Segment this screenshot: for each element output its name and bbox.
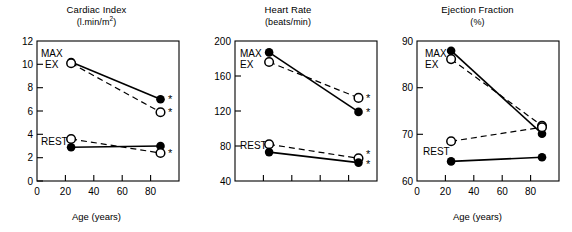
svg-text:80: 80 <box>525 186 537 197</box>
svg-text:90: 90 <box>402 36 414 47</box>
plot-area-heart-rate: 40 80 120 160 200 MAX EX REST <box>193 0 383 232</box>
datapoint-rest-open-old <box>156 149 165 158</box>
significance-star-maxex-open: * <box>366 92 371 104</box>
datapoint-maxex-open-old <box>354 94 363 103</box>
y-tick-labels: 60 70 80 90 <box>402 36 414 187</box>
panel-heart-rate: Heart Rate (beats/min) 40 80 120 160 200 <box>193 0 383 232</box>
series-line-rest-open <box>451 127 542 141</box>
svg-text:20: 20 <box>60 186 72 197</box>
svg-text:160: 160 <box>214 71 231 82</box>
series-line-rest-open <box>269 144 358 158</box>
y-tick-labels: 40 80 120 160 200 <box>214 36 231 187</box>
xaxis-caption-ejection-fraction: Age (years) <box>383 211 572 222</box>
figure-canvas: Cardiac Index (l.min/m2) 0 2 4 6 8 10 <box>0 0 572 232</box>
series-line-maxex-filled <box>71 62 160 99</box>
annotation-ex: EX <box>45 59 59 70</box>
annotation-rest: REST <box>41 136 68 147</box>
series-line-maxex-open <box>269 62 358 98</box>
svg-text:70: 70 <box>402 129 414 140</box>
svg-text:0: 0 <box>414 186 420 197</box>
svg-text:12: 12 <box>22 36 34 47</box>
svg-text:80: 80 <box>145 186 157 197</box>
svg-text:0: 0 <box>34 186 40 197</box>
datapoint-rest-open-young <box>447 137 456 146</box>
svg-text:40: 40 <box>88 186 100 197</box>
datapoint-maxex-filled-old <box>354 108 363 117</box>
datapoint-rest-filled-old <box>538 153 547 162</box>
annotation-max: MAX <box>425 48 447 59</box>
x-tick-labels: 0 20 40 60 80 <box>34 186 156 197</box>
plot-area-ejection-fraction: 60 70 80 90 0 20 40 60 80 MAX EX REST <box>383 0 572 232</box>
svg-text:8: 8 <box>27 82 33 93</box>
y-tick-marks <box>417 88 423 135</box>
significance-star-rest-filled: * <box>366 158 371 170</box>
significance-star-maxex-filled: * <box>366 106 371 118</box>
datapoint-rest-filled-young <box>67 143 76 152</box>
datapoint-maxex-filled-young <box>265 48 274 57</box>
svg-text:40: 40 <box>468 186 480 197</box>
x-tick-marks <box>445 175 530 181</box>
series-line-maxex-open <box>71 63 160 112</box>
significance-star-rest-open: * <box>168 147 173 159</box>
svg-text:6: 6 <box>27 106 33 117</box>
series-line-maxex-filled <box>451 51 542 134</box>
datapoint-rest-filled-young <box>265 148 274 157</box>
datapoint-maxex-filled-old <box>156 95 165 104</box>
annotation-rest: REST <box>423 146 450 157</box>
x-tick-marks <box>263 175 348 181</box>
svg-text:20: 20 <box>440 186 452 197</box>
significance-star-maxex-open: * <box>168 106 173 118</box>
svg-text:80: 80 <box>402 82 414 93</box>
datapoint-maxex-open-young <box>447 55 456 64</box>
svg-text:60: 60 <box>402 176 414 187</box>
y-tick-marks <box>37 64 43 181</box>
series-line-rest-filled <box>451 157 542 161</box>
svg-text:60: 60 <box>497 186 509 197</box>
plot-area-cardiac-index: 0 2 4 6 8 10 12 0 20 40 60 80 <box>0 0 193 232</box>
series-line-maxex-filled <box>269 52 358 112</box>
datapoint-maxex-open-young <box>67 59 76 68</box>
significance-star-maxex-filled: * <box>168 93 173 105</box>
x-tick-labels: 0 20 40 60 80 <box>414 186 536 197</box>
annotation-ex: EX <box>425 59 439 70</box>
svg-text:80: 80 <box>220 141 232 152</box>
series-line-rest-filled <box>71 146 160 147</box>
datapoint-maxex-filled-young <box>447 46 456 55</box>
datapoint-rest-filled-young <box>447 157 456 166</box>
y-tick-labels: 0 2 4 6 8 10 12 <box>22 36 34 187</box>
svg-text:4: 4 <box>27 129 33 140</box>
datapoint-rest-filled-old <box>354 158 363 167</box>
x-tick-marks <box>65 175 150 181</box>
y-tick-marks <box>235 76 241 146</box>
panel-ejection-fraction: Ejection Fraction (%) 60 70 80 90 <box>383 0 572 232</box>
annotation-max: MAX <box>240 48 262 59</box>
datapoint-rest-open-young <box>265 140 274 149</box>
datapoint-maxex-open-young <box>265 58 274 67</box>
svg-text:0: 0 <box>27 176 33 187</box>
svg-text:40: 40 <box>220 176 232 187</box>
svg-text:60: 60 <box>117 186 129 197</box>
svg-text:120: 120 <box>214 106 231 117</box>
annotation-rest: REST <box>240 140 267 151</box>
datapoint-rest-open-young <box>67 135 76 144</box>
svg-text:10: 10 <box>22 59 34 70</box>
annotation-ex: EX <box>240 59 254 70</box>
series-line-rest-filled <box>269 152 358 163</box>
xaxis-caption-cardiac-index: Age (years) <box>0 211 193 222</box>
annotation-max: MAX <box>41 48 63 59</box>
svg-text:2: 2 <box>27 152 33 163</box>
panel-cardiac-index: Cardiac Index (l.min/m2) 0 2 4 6 8 10 <box>0 0 193 232</box>
datapoint-rest-open-old <box>538 123 547 132</box>
datapoint-maxex-open-old <box>156 108 165 117</box>
svg-text:200: 200 <box>214 36 231 47</box>
